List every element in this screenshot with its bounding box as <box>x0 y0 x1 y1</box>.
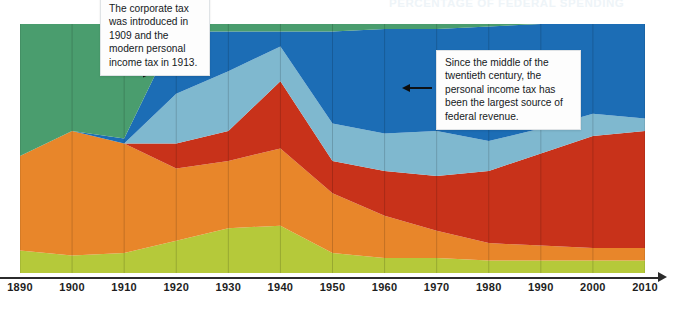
annotation-callout-income-tax: Since the middle of the twentieth centur… <box>436 50 581 130</box>
x-tick-1990: 1990 <box>528 281 554 293</box>
x-tick-1900: 1900 <box>59 281 85 293</box>
x-tick-1980: 1980 <box>476 281 502 293</box>
x-axis-arrow-icon <box>658 272 667 282</box>
x-tick-1910: 1910 <box>111 281 137 293</box>
annotation-callout-corporate-tax: The corporate tax was introduced in 1909… <box>100 0 210 76</box>
x-axis-tick-labels: 1890190019101920193019401950196019701980… <box>0 281 679 305</box>
x-tick-2010: 2010 <box>632 281 658 293</box>
x-tick-1890: 1890 <box>7 281 33 293</box>
x-tick-1930: 1930 <box>215 281 241 293</box>
x-tick-1970: 1970 <box>424 281 450 293</box>
x-tick-1920: 1920 <box>163 281 189 293</box>
x-tick-2000: 2000 <box>580 281 606 293</box>
x-tick-1940: 1940 <box>268 281 294 293</box>
chart-title: PERCENTAGE OF FEDERAL SPENDING <box>389 0 624 9</box>
x-axis-line <box>0 277 660 279</box>
chart-canvas: PERCENTAGE OF FEDERAL SPENDING 189019001… <box>0 0 679 309</box>
x-tick-1960: 1960 <box>372 281 398 293</box>
x-tick-1950: 1950 <box>320 281 346 293</box>
